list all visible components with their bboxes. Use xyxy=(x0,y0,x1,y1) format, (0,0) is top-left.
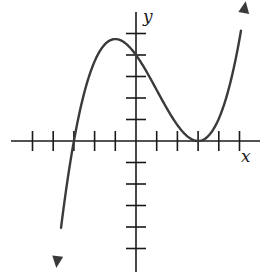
y-axis-label: y xyxy=(142,6,153,26)
arrow-down-icon xyxy=(52,255,63,268)
cubic-curve xyxy=(61,31,241,228)
x-axis-label: x xyxy=(241,146,251,166)
arrow-up-icon xyxy=(238,1,249,14)
axes xyxy=(11,12,260,272)
function-graph: x y xyxy=(0,0,265,280)
